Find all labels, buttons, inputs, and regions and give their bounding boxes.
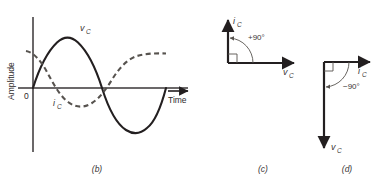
caption-b: (b) [92,164,103,174]
phasor-d-angle-label: −90° [343,82,360,91]
panel-phasor-negative: −90° i C v C (d) [324,62,370,174]
svg-text:C: C [57,103,62,110]
curve-ic [26,51,166,107]
svg-text:i: i [358,66,361,76]
svg-text:C: C [86,28,91,35]
label-vc: v C [80,23,91,35]
figure-root: 0 Amplitude Time v C i C (b) [0,0,380,186]
figure-svg: 0 Amplitude Time v C i C (b) [0,0,380,186]
waveform-ylabel: Amplitude [6,62,16,100]
svg-text:C: C [237,21,242,28]
phasor-d-right-angle-marker [324,62,333,71]
svg-text:v: v [283,67,288,77]
curve-vc [33,38,166,134]
svg-text:v: v [80,23,85,33]
phasor-c-label-vc: v C [283,67,294,79]
waveform-origin-label: 0 [24,91,29,101]
phasor-d-label-vc: v C [331,142,342,154]
panel-phasor-positive: +90° i C v C (c) [228,16,294,174]
svg-text:C: C [337,147,342,154]
phasor-c-angle-label: +90° [248,33,265,42]
svg-text:v: v [331,142,336,152]
phasor-c-right-angle-marker [228,54,237,63]
label-ic: i C [53,98,62,110]
caption-c: (c) [258,164,268,174]
svg-text:i: i [233,16,236,26]
phasor-c-label-ic: i C [233,16,242,28]
phasor-d-label-ic: i C [358,66,367,78]
panel-waveform: 0 Amplitude Time v C i C (b) [6,17,188,174]
waveform-xlabel: Time [168,95,187,105]
caption-d: (d) [342,164,353,174]
svg-text:i: i [53,98,56,108]
svg-text:C: C [362,71,367,78]
svg-text:C: C [289,72,294,79]
